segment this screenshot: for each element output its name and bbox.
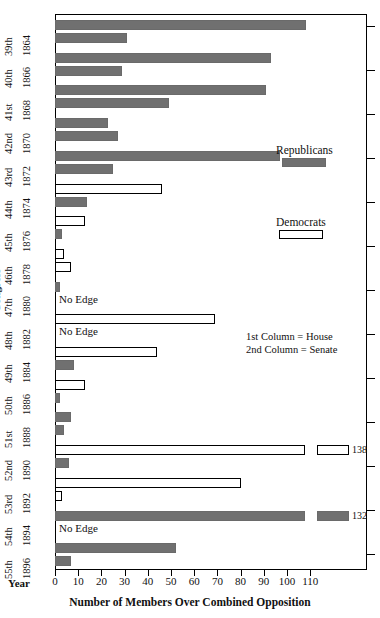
bar-republican	[55, 53, 271, 63]
bar-row	[55, 197, 367, 207]
congress-label: 42nd	[3, 133, 14, 154]
bar-republican	[55, 282, 60, 292]
bar-republican	[55, 412, 71, 422]
x-axis-tick-label: 30	[119, 575, 130, 587]
bar-republican	[55, 229, 62, 239]
bar-democrat	[55, 347, 157, 357]
bar-republican	[55, 118, 108, 128]
bar-row	[55, 184, 367, 194]
bar-row	[55, 33, 367, 43]
x-axis-tick-label: 50	[166, 575, 177, 587]
right-axis-tick	[367, 70, 375, 71]
bar-row	[55, 393, 367, 403]
bar-democrat	[55, 380, 85, 390]
bar-republican	[55, 511, 305, 521]
bar-republican	[55, 85, 266, 95]
bar-row	[55, 543, 367, 553]
bar-democrat	[55, 445, 305, 455]
no-edge-label: No Edge	[59, 324, 98, 338]
year-label: 1876	[21, 231, 32, 252]
bar-row	[55, 314, 367, 324]
right-axis-tick	[367, 334, 375, 335]
right-axis-tick	[367, 26, 375, 27]
year-label: 1868	[21, 100, 32, 121]
x-axis-tick-label: 110	[302, 575, 318, 587]
no-edge-label: No Edge	[59, 292, 98, 306]
right-axis-ticks	[367, 14, 377, 570]
year-axis-title: Year	[8, 577, 30, 589]
bar-row	[55, 556, 367, 566]
year-label: 1882	[21, 329, 32, 350]
bar-row: No Edge	[55, 524, 367, 534]
right-axis-tick	[367, 378, 375, 379]
legend-label-republicans: Republicans	[276, 144, 333, 156]
bar-republican	[55, 98, 169, 108]
legend-label-democrats: Democrats	[276, 216, 326, 228]
bar-republican	[55, 20, 306, 30]
bar-row	[55, 282, 367, 292]
congress-label: 43rd	[3, 167, 14, 186]
bar-democrat	[55, 478, 241, 488]
congress-label: 53rd	[3, 494, 14, 513]
bar-segment-broken	[317, 511, 349, 521]
bars-layer: No EdgeNo Edge138132No Edge	[55, 14, 367, 570]
right-axis-tick	[367, 246, 375, 247]
x-axis-title: Number of Members Over Combined Oppositi…	[0, 596, 380, 608]
bar-row	[55, 118, 367, 128]
legend-republicans: Republicans	[276, 144, 333, 167]
year-label: 1872	[21, 166, 32, 187]
bar-democrat	[55, 184, 162, 194]
bar-republican	[55, 360, 74, 370]
bar-democrat	[55, 216, 85, 226]
congress-label: 40th	[3, 70, 14, 89]
bar-row	[55, 380, 367, 390]
bar-republican	[55, 66, 122, 76]
legend-democrats: Democrats	[276, 216, 326, 239]
right-axis-tick	[367, 554, 375, 555]
year-label: 1888	[21, 427, 32, 448]
x-axis-tick-label: 80	[235, 575, 246, 587]
x-axis-tick-label: 70	[212, 575, 223, 587]
chart-annotation: 1st Column = House 2nd Column = Senate	[246, 330, 337, 356]
bar-segment-broken	[317, 445, 349, 455]
congress-label: 44th	[3, 201, 14, 220]
year-label: 1864	[21, 35, 32, 56]
bar-value-label: 138	[352, 445, 367, 455]
no-edge-label: No Edge	[59, 521, 98, 535]
bar-row	[55, 131, 367, 141]
x-axis-tick-label: 60	[189, 575, 200, 587]
bar-democrat	[55, 314, 215, 324]
congress-label: 48th	[3, 331, 14, 350]
bar-democrat	[55, 491, 62, 501]
x-axis-tick-label: 90	[258, 575, 269, 587]
bar-row	[55, 478, 367, 488]
bar-republican	[55, 556, 71, 566]
year-label: 1878	[21, 264, 32, 285]
bar-republican	[55, 425, 64, 435]
bar-row	[55, 249, 367, 259]
right-axis-tick	[367, 466, 375, 467]
year-label: 1892	[21, 493, 32, 514]
bar-democrat	[55, 262, 71, 272]
bar-row	[55, 85, 367, 95]
bar-republican	[55, 393, 60, 403]
bar-row	[55, 360, 367, 370]
year-label: 1890	[21, 460, 32, 481]
legend-swatch-democrats	[279, 230, 323, 239]
right-axis-tick	[367, 202, 375, 203]
year-label: 1884	[21, 362, 32, 383]
congress-label: 41st	[3, 104, 14, 122]
year-label: 1886	[21, 394, 32, 415]
bar-republican	[55, 151, 280, 161]
bar-row	[55, 53, 367, 63]
bar-republican	[55, 197, 87, 207]
bar-republican	[55, 131, 118, 141]
congress-label: 50th	[3, 397, 14, 416]
congress-label: 45th	[3, 233, 14, 252]
bar-republican	[55, 33, 127, 43]
bar-value-label: 132	[352, 511, 367, 521]
right-axis-tick	[367, 510, 375, 511]
year-label: 1894	[21, 525, 32, 546]
bar-republican	[55, 164, 113, 174]
year-label: 1874	[21, 198, 32, 219]
